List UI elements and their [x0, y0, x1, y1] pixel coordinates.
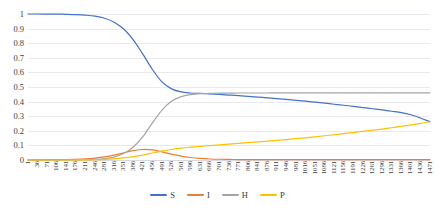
x-axis-tick-label: 176 [72, 161, 79, 171]
x-axis-tick-label: 806 [245, 161, 252, 171]
series-line-s [28, 14, 430, 122]
x-axis-tick-label: 561 [178, 161, 185, 171]
x-axis-tick-label: 246 [92, 161, 99, 171]
series-line-p [28, 122, 430, 160]
x-axis-tick-label: 596 [187, 161, 194, 171]
x-axis-tick-label: 1401 [407, 161, 414, 174]
y-axis-tick-label: 1 [20, 10, 24, 19]
legend-label: S [170, 191, 175, 200]
x-axis-tick-label: 71 [44, 161, 51, 168]
legend-label: I [207, 191, 210, 200]
x-axis-tick-label: 911 [273, 161, 280, 171]
x-axis-tick-label: 1191 [350, 161, 357, 174]
legend-swatch-icon [150, 194, 167, 196]
x-axis-tick-label: 1086 [321, 161, 328, 174]
x-axis-tick-label: 1121 [331, 161, 338, 174]
x-axis-tick-label: 736 [226, 161, 233, 171]
legend-swatch-icon [222, 194, 239, 196]
x-axis-tick-label: 666 [206, 161, 213, 171]
series-line-i [28, 149, 430, 159]
legend-item-s[interactable]: S [150, 191, 175, 200]
series-line-h [28, 93, 430, 160]
x-axis-tick-label: 36 [34, 161, 41, 168]
x-axis-tick-label: 1471 [427, 161, 434, 174]
x-axis-tick-label: 771 [235, 161, 242, 171]
x-axis-tick-label: 1016 [302, 161, 309, 174]
x-axis: 1367110614117621124628131635138642145649… [28, 161, 430, 191]
x-axis-tick-label: 211 [82, 161, 89, 171]
y-axis-tick-label: 0.2 [13, 127, 24, 136]
legend-swatch-icon [187, 194, 204, 196]
series-lines [28, 14, 430, 160]
legend-item-p[interactable]: P [260, 191, 285, 200]
x-axis-tick-label: 456 [149, 161, 156, 171]
x-axis-tick-label: 701 [216, 161, 223, 171]
x-axis-tick-label: 526 [168, 161, 175, 171]
legend-item-h[interactable]: H [222, 191, 248, 200]
y-axis-tick-label: 0.1 [13, 141, 24, 150]
x-axis-tick-label: 421 [139, 161, 146, 171]
x-axis-tick-label: 1 [25, 161, 32, 164]
x-axis-tick-label: 1051 [312, 161, 319, 174]
x-axis-tick-label: 981 [293, 161, 300, 171]
x-axis-tick-label: 631 [197, 161, 204, 171]
x-axis-tick-label: 141 [63, 161, 70, 171]
x-axis-tick-label: 1366 [398, 161, 405, 174]
y-axis-tick-label: 0.9 [13, 24, 24, 33]
plot-area [28, 14, 430, 160]
x-axis-tick-label: 1296 [379, 161, 386, 174]
y-axis-tick-label: 0.3 [13, 112, 24, 121]
x-axis-tick-label: 841 [254, 161, 261, 171]
y-axis-tick-label: 0.6 [13, 68, 24, 77]
line-chart: 10.90.80.70.60.50.40.30.20.10 1367110614… [0, 0, 435, 212]
legend-label: H [242, 191, 248, 200]
y-axis-tick-label: 0.7 [13, 54, 24, 63]
y-axis-tick-label: 0.5 [13, 83, 24, 92]
x-axis-tick-label: 351 [120, 161, 127, 171]
legend-item-i[interactable]: I [187, 191, 210, 200]
y-axis-tick-label: 0.8 [13, 39, 24, 48]
legend-label: P [280, 191, 285, 200]
x-axis-tick-label: 946 [283, 161, 290, 171]
x-axis-tick-label: 491 [159, 161, 166, 171]
x-axis-tick-label: 316 [111, 161, 118, 171]
x-axis-tick-label: 1261 [369, 161, 376, 174]
y-axis-tick-label: 0.4 [13, 97, 24, 106]
legend-swatch-icon [260, 194, 277, 196]
x-axis-tick-label: 1331 [388, 161, 395, 174]
x-axis-tick-label: 876 [264, 161, 271, 171]
x-axis-tick-label: 106 [53, 161, 60, 171]
y-axis: 10.90.80.70.60.50.40.30.20.10 [0, 14, 24, 160]
x-axis-tick-label: 1226 [360, 161, 367, 174]
x-axis-tick-label: 281 [101, 161, 108, 171]
x-axis-tick-label: 386 [130, 161, 137, 171]
x-axis-tick-label: 1156 [340, 161, 347, 174]
chart-legend: SIHP [0, 188, 435, 202]
x-axis-tick-label: 1436 [417, 161, 424, 174]
